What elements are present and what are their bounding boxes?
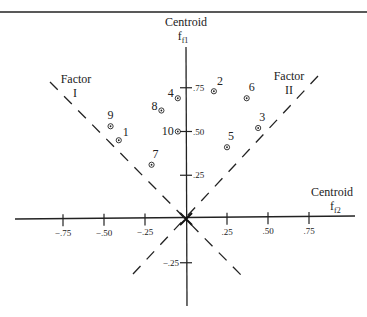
data-point: 5 [224,129,234,150]
factor-i-numeral: I [73,86,77,100]
y-tick-label: .50 [193,127,205,137]
x-axis-subtitle: ff2 [330,199,341,215]
point-label: 4 [168,86,174,100]
data-point: 6 [244,80,255,101]
y-axis [186,47,187,306]
factor-ii-label: Factor [274,69,305,83]
data-point: 2 [211,74,223,94]
point-label: 3 [259,110,265,124]
y-tick-label: .75 [193,83,205,93]
x-tick-label: −.50 [96,228,113,238]
factor-i-label: Factor [61,72,92,86]
data-point: 7 [149,147,159,168]
point-label: 8 [151,99,157,113]
y-axis-subtitle: ff1 [178,29,189,45]
data-point: 8 [151,99,164,114]
factor-plot: −.75−.50−.25.25.50.75.75.50.25−.25 12345… [0,0,367,317]
x-tick-label: .75 [303,226,315,236]
factor-ii-axis [133,76,318,274]
data-point: 9 [108,108,114,129]
x-tick-label: −.25 [137,227,154,237]
point-label: 5 [228,129,234,143]
point-label: 1 [123,125,129,139]
point-label: 2 [217,74,223,88]
point-label: 9 [108,108,114,122]
x-axis-title: Centroid [311,185,353,199]
y-tick-label: −.25 [163,258,180,268]
y-axis-title: Centroid [165,15,207,29]
data-point: 3 [256,110,266,131]
y-tick-label: .25 [193,170,205,180]
factor-i-axis [50,82,241,275]
x-tick-label: −.75 [55,228,72,238]
x-tick-label: .25 [221,227,233,237]
data-point: 1 [116,125,129,143]
factor-ii-numeral: II [285,83,293,97]
point-label: 10 [162,124,174,138]
x-tick-label: .50 [262,226,274,236]
data-point: 4 [168,86,181,101]
point-label: 7 [153,147,159,161]
point-label: 6 [249,80,255,94]
data-point: 10 [162,124,181,138]
